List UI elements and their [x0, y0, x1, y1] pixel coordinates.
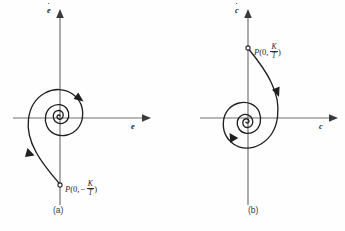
panel-a-graphic — [13, 9, 151, 205]
panel-a-x-axis-arrow-icon — [142, 114, 151, 122]
panel-a-point-sign: − — [79, 185, 86, 194]
figure-container: e e P(0,− K T ) (a) c c P(0, K T ) (b) — [0, 0, 345, 231]
panel-b-x-axis-label: c — [319, 122, 323, 131]
panel-b-point-denominator: T — [271, 52, 277, 60]
derivative-dot-icon — [236, 3, 238, 5]
panel-a-point-close-paren: ) — [94, 185, 97, 194]
panel-a-trajectory — [28, 90, 83, 185]
panel-a-x-axis-label-text: e — [131, 121, 135, 131]
panel-a-tail-direction-arrow-icon — [25, 148, 35, 157]
panel-a-point-denominator: T — [87, 189, 93, 197]
panel-a-point-label: P(0,− K T ) — [65, 180, 97, 198]
panel-a-x-axis-label: e — [131, 122, 135, 131]
panel-a-y-axis-arrow-icon — [56, 9, 64, 18]
phase-plane-figure — [0, 0, 345, 231]
panel-b-point-close-paren: ) — [278, 48, 281, 57]
panel-a-caption-text: (a) — [53, 205, 63, 215]
panel-b-caption-text: (b) — [248, 205, 258, 215]
e-dot-symbol: e — [47, 6, 51, 15]
panel-b-start-point-marker — [246, 46, 250, 50]
panel-a-point-fraction: K T — [87, 180, 94, 198]
panel-b-x-axis-label-text: c — [319, 121, 323, 131]
panel-b-point-label: P(0, K T ) — [254, 43, 281, 61]
panel-b-y-axis-label-text: c — [235, 5, 239, 15]
panel-b-y-axis-label: c — [235, 6, 239, 15]
panel-b-caption: (b) — [248, 206, 258, 215]
derivative-dot-icon — [48, 3, 50, 5]
c-dot-symbol: c — [235, 6, 239, 15]
panel-b-y-axis-arrow-icon — [244, 9, 252, 18]
panel-b-graphic — [200, 9, 338, 205]
panel-a-point-numerator: K — [87, 180, 94, 188]
panel-b-direction-arrow-icon-2 — [230, 133, 239, 143]
panel-a-caption: (a) — [53, 206, 63, 215]
panel-a-start-point-marker — [58, 183, 62, 187]
panel-b-point-comma: , — [266, 48, 270, 57]
panel-b-point-fraction: K T — [270, 43, 277, 61]
panel-b-point-numerator: K — [270, 43, 277, 51]
panel-a-direction-arrow-icon — [74, 93, 84, 102]
panel-b-x-axis-arrow-icon — [329, 114, 338, 122]
panel-a-y-axis-label: e — [47, 6, 51, 15]
panel-b-trajectory — [223, 49, 278, 149]
panel-a-y-axis-label-text: e — [47, 5, 51, 15]
